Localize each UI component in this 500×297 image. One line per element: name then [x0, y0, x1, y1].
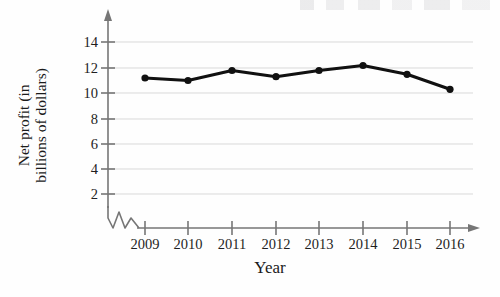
data-point-2011 [228, 67, 235, 74]
y-axis-arrow-icon [104, 9, 112, 21]
data-point-2014 [359, 62, 366, 69]
chart-figure: Net profit (in billions of dollars) 14 1… [0, 0, 500, 297]
grid-lines [108, 42, 473, 194]
data-point-markers [141, 62, 453, 93]
data-line-net-profit [145, 66, 450, 90]
data-point-2015 [403, 71, 410, 78]
y-axis [104, 9, 112, 208]
plot-area [0, 0, 500, 297]
data-point-2016 [446, 86, 453, 93]
data-point-2013 [315, 67, 322, 74]
data-point-2010 [184, 77, 191, 84]
x-axis-arrow-icon [468, 224, 480, 232]
data-point-2012 [272, 73, 279, 80]
axis-break-icon [108, 206, 139, 228]
data-point-2009 [141, 74, 148, 81]
